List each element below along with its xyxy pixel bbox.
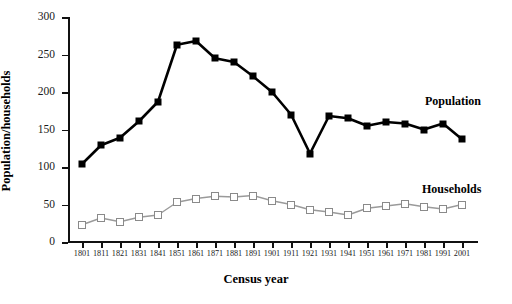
x-tick: [310, 242, 312, 248]
data-point-marker: [117, 134, 124, 141]
data-point-marker: [174, 41, 181, 48]
data-point-marker: [211, 192, 219, 200]
x-tick: [139, 242, 141, 248]
data-point-marker: [192, 195, 200, 203]
x-tick-label: 1981: [416, 250, 432, 258]
x-tick: [348, 242, 350, 248]
x-tick: [196, 242, 198, 248]
data-point-marker: [155, 98, 162, 105]
x-tick: [405, 242, 407, 248]
data-point-marker: [326, 113, 333, 120]
x-tick: [101, 242, 103, 248]
data-point-marker: [250, 73, 257, 80]
y-tick: 250: [62, 55, 68, 57]
plot-area: 050100150200250300 180118111821183118411…: [68, 17, 478, 242]
x-tick: [443, 242, 445, 248]
data-point-marker: [345, 115, 352, 122]
data-point-marker: [306, 206, 314, 214]
data-point-marker: [382, 202, 390, 210]
data-point-marker: [383, 119, 390, 126]
x-tick-label: 1881: [226, 250, 242, 258]
data-point-marker: [344, 211, 352, 219]
data-point-marker: [287, 201, 295, 209]
x-tick-label: 1801: [74, 250, 90, 258]
x-tick-label: 1891: [245, 250, 261, 258]
y-axis-title: Population/households: [0, 71, 14, 192]
data-point-marker: [230, 193, 238, 201]
data-point-marker: [440, 120, 447, 127]
x-tick: [462, 242, 464, 248]
x-tick-label: 1901: [264, 250, 280, 258]
x-tick-label: 1991: [435, 250, 451, 258]
data-point-marker: [459, 136, 466, 143]
data-point-marker: [154, 211, 162, 219]
households-series-label: Households: [422, 182, 481, 197]
data-point-marker: [288, 111, 295, 118]
data-point-marker: [173, 198, 181, 206]
data-point-marker: [401, 200, 409, 208]
x-tick: [120, 242, 122, 248]
data-point-marker: [78, 221, 86, 229]
data-point-marker: [364, 122, 371, 129]
data-point-marker: [193, 38, 200, 45]
data-point-marker: [79, 161, 86, 168]
population-line: [82, 41, 462, 164]
y-tick: 0: [62, 242, 68, 244]
x-tick: [424, 242, 426, 248]
x-tick: [158, 242, 160, 248]
data-point-marker: [439, 205, 447, 213]
x-tick-label: 1841: [150, 250, 166, 258]
data-point-marker: [212, 55, 219, 62]
data-point-marker: [325, 208, 333, 216]
x-tick-label: 1961: [378, 250, 394, 258]
data-point-marker: [307, 150, 314, 157]
data-point-marker: [402, 120, 409, 127]
y-tick-label: 50: [44, 199, 56, 211]
x-tick: [367, 242, 369, 248]
y-tick-label: 100: [38, 161, 55, 173]
x-tick-label: 1831: [131, 250, 147, 258]
x-tick-label: 1821: [112, 250, 128, 258]
y-tick: 200: [62, 92, 68, 94]
x-axis-title: Census year: [0, 272, 512, 287]
x-tick-label: 1861: [188, 250, 204, 258]
chart-figure: Population/households 050100150200250300…: [0, 0, 512, 304]
data-point-marker: [231, 59, 238, 66]
x-tick: [386, 242, 388, 248]
x-tick-label: 1941: [340, 250, 356, 258]
x-tick: [234, 242, 236, 248]
y-tick: 100: [62, 167, 68, 169]
x-tick-label: 1921: [302, 250, 318, 258]
x-tick: [272, 242, 274, 248]
y-tick-label: 200: [38, 86, 55, 98]
x-tick: [215, 242, 217, 248]
x-tick-label: 1911: [283, 250, 299, 258]
y-tick: 300: [62, 17, 68, 19]
x-tick-label: 1871: [207, 250, 223, 258]
data-point-marker: [249, 192, 257, 200]
x-tick: [291, 242, 293, 248]
data-point-marker: [98, 142, 105, 149]
population-series-label: Population: [425, 94, 481, 109]
x-tick-label: 1931: [321, 250, 337, 258]
data-point-marker: [97, 214, 105, 222]
x-tick-label: 1951: [359, 250, 375, 258]
y-tick: 150: [62, 130, 68, 132]
y-tick-label: 0: [49, 236, 55, 248]
y-tick-label: 300: [38, 11, 55, 23]
data-point-marker: [363, 204, 371, 212]
x-tick: [253, 242, 255, 248]
x-tick-label: 1851: [169, 250, 185, 258]
data-point-marker: [420, 203, 428, 211]
y-tick-label: 150: [38, 124, 55, 136]
data-point-marker: [268, 197, 276, 205]
data-point-marker: [116, 218, 124, 226]
data-point-marker: [421, 126, 428, 133]
x-tick-label: 1811: [93, 250, 109, 258]
series-lines: [68, 17, 478, 242]
data-point-marker: [136, 118, 143, 125]
data-point-marker: [458, 201, 466, 209]
x-tick: [82, 242, 84, 248]
data-point-marker: [135, 213, 143, 221]
x-tick: [329, 242, 331, 248]
